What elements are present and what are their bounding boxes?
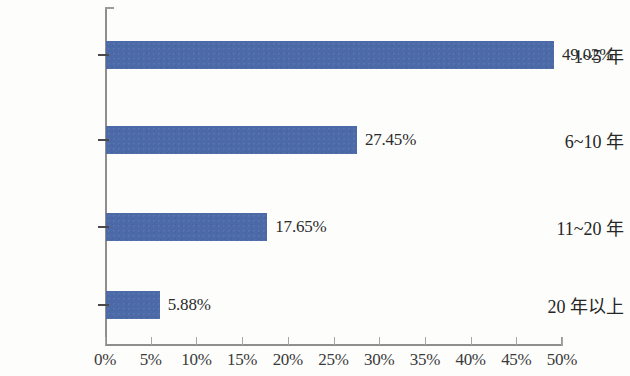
x-axis-tick-label: 10% [181,350,211,370]
category-label: 1~5 年 [530,42,630,68]
bar-chart: 0%5%10%15%20%25%30%35%40%45%50% 49.02%27… [0,0,630,376]
x-axis-tick-label: 50% [547,350,577,370]
x-axis-tick [105,337,106,345]
y-axis-tick [98,139,109,141]
y-axis-tick [98,304,109,306]
x-axis-tick-label: 30% [364,350,394,370]
category-label: 6~10 年 [530,127,630,153]
bar[interactable] [106,126,357,154]
bar[interactable] [106,213,267,241]
x-axis-tick [242,337,243,345]
bar-value-label: 5.88% [168,295,211,315]
y-axis-tick [98,226,109,228]
y-axis-top-cap [105,7,114,9]
x-axis-tick-label: 20% [273,350,303,370]
x-axis-tick-label: 25% [318,350,348,370]
x-axis-tick [334,337,335,345]
x-axis-tick [516,337,517,345]
x-axis-tick [151,337,152,345]
category-label: 11~20 年 [530,214,630,240]
x-axis-tick [471,337,472,345]
bar[interactable] [106,291,160,319]
x-axis-tick-label: 15% [227,350,257,370]
bar-value-label: 17.65% [275,217,326,237]
x-axis-tick-label: 35% [410,350,440,370]
x-axis-tick-label: 40% [455,350,485,370]
bar[interactable] [106,41,554,69]
x-axis-tick [379,337,380,345]
x-axis-tick [196,337,197,345]
category-label: 20 年以上 [530,292,630,318]
bar-value-label: 27.45% [365,130,416,150]
x-axis-tick-label: 45% [501,350,531,370]
y-axis-tick [98,54,109,56]
x-axis-tick-label: 0% [94,350,116,370]
x-axis-tick-label: 5% [140,350,162,370]
x-axis-tick [562,337,563,345]
x-axis-tick [288,337,289,345]
x-axis-tick [425,337,426,345]
